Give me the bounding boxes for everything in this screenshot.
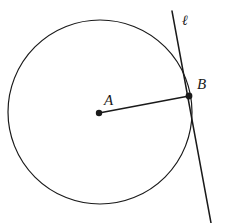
tangent-line-label: ℓ <box>182 14 188 28</box>
point-b-label: B <box>197 77 206 92</box>
geometry-canvas <box>0 0 225 223</box>
point-b-dot <box>186 93 193 100</box>
point-a-label: A <box>104 93 113 108</box>
tangent-line-ell <box>172 11 211 223</box>
geometry-figure: A B ℓ <box>0 0 225 223</box>
point-a-dot <box>96 110 102 116</box>
